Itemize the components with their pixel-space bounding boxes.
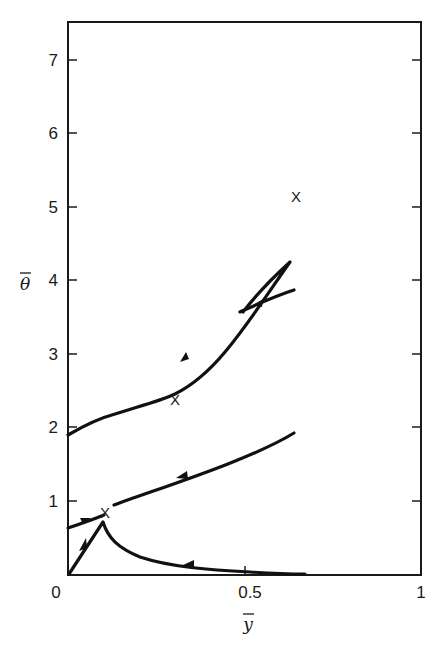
- y-tick-label-1: 1: [49, 492, 58, 511]
- y-tick-labels: 1 2 3 4 5 6 7: [49, 51, 58, 511]
- x-tick-labels: 0 0.5 1: [51, 583, 425, 602]
- arrow-left-icon: [176, 471, 188, 479]
- y-tick-label-6: 6: [49, 124, 58, 143]
- plot-frame: [68, 22, 421, 575]
- y-tick-label-5: 5: [49, 198, 58, 217]
- phase-plot: 1 2 3 4 5 6 7 0 0.5 1 θ y X X X: [0, 0, 442, 648]
- singular-point-marker-middle: X: [170, 391, 180, 408]
- saddle-point-marker: X: [100, 504, 110, 521]
- y-tick-label-2: 2: [49, 418, 58, 437]
- singular-point-marker-upper: X: [291, 188, 301, 205]
- upper-trajectory: [68, 262, 294, 435]
- y-ticks-right: [412, 60, 421, 501]
- arrow-up-right-icon: [180, 352, 189, 362]
- x-tick-label-0-5: 0.5: [238, 583, 262, 602]
- y-tick-label-3: 3: [49, 345, 58, 364]
- y-tick-label-4: 4: [49, 271, 58, 290]
- middle-trajectory: [114, 433, 294, 505]
- x-tick-label-0: 0: [51, 583, 60, 602]
- x-tick-label-1: 1: [416, 583, 425, 602]
- y-axis-label: θ: [20, 273, 31, 294]
- y-tick-label-7: 7: [49, 51, 58, 70]
- svg-text:θ: θ: [20, 274, 30, 294]
- x-axis-label: y: [242, 614, 254, 634]
- svg-text:y: y: [242, 614, 253, 634]
